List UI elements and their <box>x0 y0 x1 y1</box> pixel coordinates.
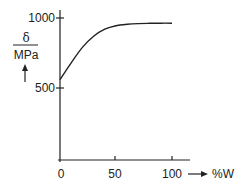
x-tick-label-50: 50 <box>108 167 122 181</box>
x-tick-label-100: 100 <box>162 167 182 181</box>
x-arrowhead-icon <box>201 171 208 177</box>
x-tick-label-0: 0 <box>58 167 65 181</box>
y-axis-label-symbol: δ <box>22 31 29 45</box>
y-arrowhead-icon <box>22 64 28 71</box>
chart: 1000 500 0 50 100 %W δ MPa <box>0 0 244 185</box>
data-curve <box>60 23 172 79</box>
y-tick-label-1000: 1000 <box>28 11 55 25</box>
y-axis-label-unit: MPa <box>14 48 39 62</box>
x-axis-label: %W <box>212 167 235 181</box>
y-tick-label-500: 500 <box>35 81 55 95</box>
